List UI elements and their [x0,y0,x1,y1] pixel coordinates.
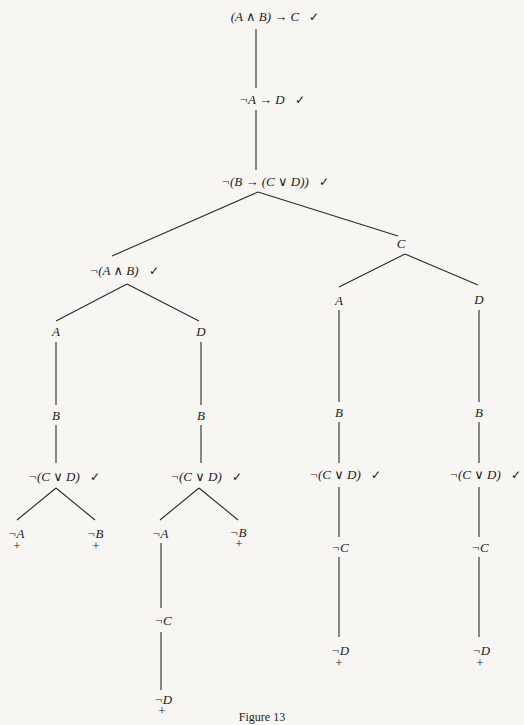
tree-node-not-c: ¬C [331,541,348,554]
tree-node-not-c-or-d: ¬(C ∨ D)✓ [309,468,381,481]
tree-node-not-c-or-d: ¬(C ∨ D)✓ [170,470,242,483]
tree-node-c: C [397,237,406,250]
check-mark-icon: ✓ [295,93,305,107]
tree-node-not-a-implies-d: ¬A → D✓ [239,93,304,106]
closed-branch-marker: + [92,539,99,552]
formula: ¬(C ∨ D) [309,467,361,482]
check-mark-icon: ✓ [319,175,329,189]
formula: ¬(B → (C ∨ D)) [221,174,309,189]
check-mark-icon: ✓ [90,470,100,484]
tree-node-b: B [52,409,60,422]
tree-node-not-c: ¬C [154,614,171,627]
formula: ¬(C ∨ D) [28,469,80,484]
tree-node-not-b-implies-c-or-d: ¬(B → (C ∨ D))✓ [221,175,329,188]
tree-node-d-left: D [196,325,205,338]
closed-branch-marker: + [476,656,483,669]
formula: ¬(C ∨ D) [449,467,501,482]
formula: ¬(A ∧ B) [89,263,138,278]
check-mark-icon: ✓ [511,468,521,482]
tree-node-not-c-or-d: ¬(C ∨ D)✓ [28,470,100,483]
tree-node-d-right: D [474,293,483,306]
tree-node-not-c-or-d: ¬(C ∨ D)✓ [449,468,521,481]
tree-node-not-c: ¬C [471,541,488,554]
check-mark-icon: ✓ [232,470,242,484]
tree-node-not-a-and-b: ¬(A ∧ B)✓ [89,264,158,277]
formula: ¬A → D [239,92,284,107]
tree-node-a-right: A [335,294,343,307]
formula: (A ∧ B) → C [231,9,300,24]
check-mark-icon: ✓ [149,264,159,278]
closed-branch-marker: + [158,704,165,717]
tree-node-a-left: A [52,325,60,338]
closed-branch-marker: + [13,539,20,552]
tree-node-not-a: ¬A [152,527,169,540]
check-mark-icon: ✓ [371,468,381,482]
tree-node-b: B [475,406,483,419]
closed-branch-marker: + [335,656,342,669]
tree-node-b: B [197,409,205,422]
tree-node-b: B [335,406,343,419]
tree-node-root: (A ∧ B) → C✓ [231,10,320,23]
closed-branch-marker: + [235,537,242,550]
check-mark-icon: ✓ [309,10,319,24]
figure-caption: Figure 13 [239,710,285,725]
formula: ¬(C ∨ D) [170,469,222,484]
